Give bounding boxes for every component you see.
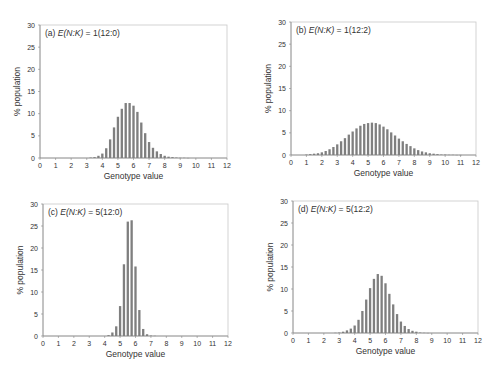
panel-title: (c) E(N:K) = 5(12:0) [48,207,123,217]
bar [425,152,427,155]
x-tick-label: 12 [223,162,231,169]
x-tick-label: 2 [69,162,73,169]
bar [377,274,379,333]
bar [348,135,350,155]
bar [146,334,148,336]
x-tick-label: 0 [291,337,295,344]
bar [167,157,169,158]
x-tick-label: 3 [85,162,89,169]
y-tick-label: 30 [278,19,286,26]
bar [357,320,359,333]
figure-canvas: 0123456789101112051015202530Genotype val… [0,0,491,369]
chart-panel-c: 0123456789101112051015202530Genotype val… [15,201,232,360]
x-tick-label: 8 [412,159,416,166]
panel-title: (b) E(N:K) = 1(12:2) [296,25,371,35]
y-tick-label: 15 [27,88,35,95]
bar [164,156,166,158]
bar [384,283,386,333]
x-tick-label: 9 [180,340,184,347]
y-tick-label: 0 [31,155,35,162]
bar [411,331,413,333]
bar [375,123,377,155]
x-tick-label: 4 [103,340,107,347]
bar [130,220,132,336]
x-tick-label: 10 [443,337,451,344]
bar [134,266,136,336]
y-tick-label: 15 [278,85,286,92]
x-tick-label: 10 [441,159,449,166]
bar [127,222,129,336]
chart-panel-b: 0123456789101112051015202530Genotype val… [263,19,480,179]
bar [325,151,327,155]
bar [113,127,115,158]
bar [407,329,409,333]
bar [336,144,338,155]
bar [415,332,417,333]
bar [340,141,342,155]
bar [119,306,121,336]
y-tick-label: 15 [280,264,288,271]
x-tick-label: 12 [472,159,480,166]
x-tick-label: 12 [224,340,232,347]
x-tick-label: 7 [399,337,403,344]
bar [152,148,154,158]
x-tick-label: 2 [320,159,324,166]
bar [388,294,390,333]
x-tick-label: 11 [459,337,466,344]
bar [436,154,438,155]
y-tick-label: 20 [278,63,286,70]
bar [405,144,407,155]
bar [111,332,113,336]
chart-panel-d: 0123456789101112051015202530Genotype val… [265,198,482,357]
x-tick-label: 5 [368,337,372,344]
x-tick-label: 9 [428,159,432,166]
bar [309,154,311,155]
x-tick-label: 11 [208,162,215,169]
y-tick-label: 5 [282,129,286,136]
y-axis-label: % population [263,64,273,113]
y-tick-label: 25 [30,223,38,230]
x-tick-label: 1 [306,337,310,344]
y-tick-label: 0 [34,333,38,340]
y-axis-label: % population [12,67,22,116]
y-tick-label: 30 [27,22,35,29]
bar [409,146,411,155]
bar [350,329,352,333]
bar [402,141,404,155]
bar [429,153,431,155]
x-tick-label: 3 [87,340,91,347]
bar [359,126,361,155]
x-axis-label: Genotype value [106,349,166,359]
x-tick-label: 1 [56,340,60,347]
y-tick-label: 10 [30,289,38,296]
x-tick-label: 8 [163,162,167,169]
y-tick-label: 5 [284,308,288,315]
x-tick-label: 6 [132,162,136,169]
bar [132,106,134,158]
bar [413,148,415,155]
bar [317,153,319,155]
bar [109,139,111,158]
bar [380,276,382,333]
bar [328,149,330,155]
x-tick-label: 4 [353,337,357,344]
y-tick-label: 20 [30,245,38,252]
x-tick-label: 5 [118,340,122,347]
x-tick-label: 7 [147,162,151,169]
bar [417,150,419,155]
bar [386,129,388,155]
bar [369,288,371,333]
y-tick-label: 10 [27,110,35,117]
x-tick-label: 9 [430,337,434,344]
y-tick-label: 5 [31,132,35,139]
bar [432,154,434,155]
x-tick-label: 2 [322,337,326,344]
bar [346,330,348,333]
x-tick-label: 10 [193,340,201,347]
y-tick-label: 20 [27,66,35,73]
x-tick-label: 2 [72,340,76,347]
bar [117,117,119,158]
bar [160,154,162,158]
bar [390,132,392,155]
bar [361,311,363,333]
